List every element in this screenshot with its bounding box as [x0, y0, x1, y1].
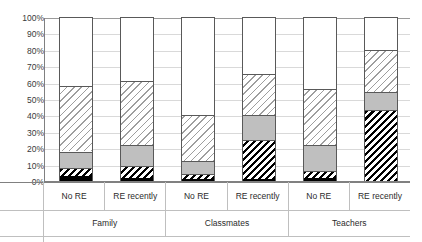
x-axis: No RERE recentlyNo RERE recentlyNo RERE … — [44, 182, 410, 242]
y-axis-tick-label: 40% — [4, 112, 44, 121]
axis-separator-bottom — [0, 236, 43, 237]
gridline — [45, 166, 410, 167]
gridline — [45, 84, 410, 85]
bar — [59, 17, 93, 181]
x-axis-category-label: No RE — [166, 182, 227, 210]
x-axis-category-label: RE recently — [105, 182, 166, 210]
bar-segment-series-5-white — [304, 17, 336, 89]
gridline — [45, 116, 410, 117]
bar — [181, 17, 215, 181]
gridline — [45, 149, 410, 150]
bar-segment-series-3-gray — [121, 145, 153, 166]
y-axis-tick-label: 90% — [4, 30, 44, 39]
bar-segment-series-4-hatch-light — [182, 115, 214, 161]
bar-segment-series-2-hatch-dark — [304, 171, 336, 178]
bar-segment-series-4-hatch-light — [365, 50, 397, 93]
x-axis-label-gutter — [0, 182, 44, 242]
bar-segment-series-3-gray — [182, 161, 214, 174]
gridline — [45, 34, 410, 35]
bar — [242, 17, 276, 181]
y-axis-tick-label: 80% — [4, 47, 44, 56]
bar — [120, 17, 154, 181]
bar-segment-series-2-hatch-dark — [365, 110, 397, 181]
x-axis-category-label: No RE — [289, 182, 350, 210]
bar-segment-series-3-gray — [243, 115, 275, 140]
bar-segment-series-2-hatch-dark — [243, 140, 275, 179]
bar-segment-series-1-black — [243, 179, 275, 181]
x-axis-category-label: No RE — [44, 182, 105, 210]
x-axis-group-label: Teachers — [289, 210, 410, 236]
bar-segment-series-4-hatch-light — [60, 86, 92, 152]
bar-segment-series-4-hatch-light — [243, 74, 275, 115]
y-axis-tick-label: 100% — [4, 14, 44, 23]
bar-segment-series-5-white — [60, 17, 92, 86]
bar-segment-series-5-white — [365, 17, 397, 50]
gridline — [45, 18, 410, 19]
y-axis-tick-label: 70% — [4, 63, 44, 72]
y-axis-tick-label: 50% — [4, 96, 44, 105]
bar-segment-series-1-black — [304, 178, 336, 181]
bar-segment-series-3-gray — [365, 92, 397, 110]
y-axis-tick-label: 20% — [4, 145, 44, 154]
bar-segment-series-1-black — [60, 176, 92, 181]
gridline — [45, 133, 410, 134]
x-axis-bottom-line — [44, 236, 410, 237]
gridline — [45, 67, 410, 68]
bar-segment-series-1-black — [121, 178, 153, 181]
bar — [303, 17, 337, 181]
x-axis-group-label: Classmates — [166, 210, 288, 236]
y-axis-tick-label: 60% — [4, 80, 44, 89]
x-axis-category-label: RE recently — [350, 182, 410, 210]
bar-segment-series-5-white — [121, 17, 153, 81]
bar-segment-series-2-hatch-dark — [60, 168, 92, 176]
bar-segment-series-4-hatch-light — [121, 81, 153, 145]
bar-segment-series-4-hatch-light — [304, 89, 336, 145]
gridline — [45, 100, 410, 101]
bar-segment-series-5-white — [182, 17, 214, 115]
bar-segment-series-2-hatch-dark — [121, 166, 153, 177]
x-axis-category-label: RE recently — [228, 182, 289, 210]
y-axis-tick-label: 30% — [4, 129, 44, 138]
stacked-bar-chart: 100%90%80%70%60%50%40%30%20%10%0% No RER… — [0, 0, 422, 242]
bar-segment-series-5-white — [243, 17, 275, 74]
plot-area — [44, 18, 410, 182]
bar-segment-series-1-black — [182, 179, 214, 181]
gridline — [45, 51, 410, 52]
x-axis-group-label: Family — [44, 210, 166, 236]
y-axis-tick-label: 10% — [4, 162, 44, 171]
bar-segment-series-3-gray — [60, 152, 92, 168]
bar-segment-series-3-gray — [304, 145, 336, 171]
axis-separator-mid — [0, 210, 43, 211]
x-axis-group-row: FamilyClassmatesTeachers — [44, 210, 410, 236]
axis-separator-top — [0, 182, 43, 183]
bar-segment-series-2-hatch-dark — [182, 174, 214, 179]
bar — [364, 17, 398, 181]
x-axis-category-row: No RERE recentlyNo RERE recentlyNo RERE … — [44, 182, 410, 210]
